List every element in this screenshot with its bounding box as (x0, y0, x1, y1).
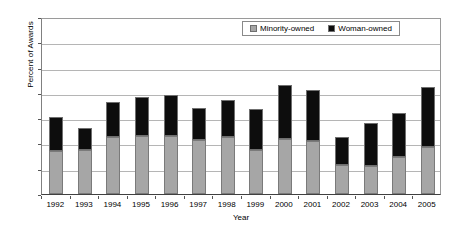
bar-stack (364, 123, 378, 194)
bar-segment-woman-owned (335, 137, 349, 165)
legend-swatch-woman-icon (328, 25, 335, 32)
bar-segment-minority-owned (78, 150, 92, 195)
x-axis-tick-mark (98, 196, 99, 199)
bar-stack (78, 128, 92, 194)
bar-segment-minority-owned (164, 136, 178, 194)
bar-stack (392, 113, 406, 194)
x-axis-tick-mark (127, 196, 128, 199)
bar-segment-minority-owned (335, 165, 349, 194)
bar-segment-minority-owned (49, 151, 63, 194)
x-axis-tick-label: 2005 (407, 200, 447, 209)
x-axis-tick-mark (70, 196, 71, 199)
bar-segment-woman-owned (364, 123, 378, 165)
bar-stack (192, 108, 206, 194)
bar-stack (221, 100, 235, 194)
bar-stack (421, 87, 435, 194)
bar-segment-minority-owned (364, 166, 378, 194)
bar-segment-minority-owned (421, 147, 435, 194)
x-axis-tick-mark (270, 196, 271, 199)
bar-segment-woman-owned (192, 108, 206, 141)
bar-segment-woman-owned (278, 85, 292, 139)
bar-segment-woman-owned (164, 95, 178, 136)
x-axis-tick-mark (384, 196, 385, 199)
bar-segment-woman-owned (135, 97, 149, 136)
bar-segment-woman-owned (221, 100, 235, 137)
bar-segment-minority-owned (221, 137, 235, 194)
bar-segment-woman-owned (306, 90, 320, 141)
bar-segment-woman-owned (78, 128, 92, 149)
bar-segment-woman-owned (49, 117, 63, 151)
x-axis-tick-mark (298, 196, 299, 199)
x-axis-title: Year (41, 213, 441, 222)
legend-swatch-minority-icon (250, 25, 257, 32)
x-axis-tick-mark (184, 196, 185, 199)
chart-legend: Minority-owned Woman-owned (242, 21, 400, 36)
bar-segment-minority-owned (249, 150, 263, 195)
x-axis-tick-mark (41, 196, 42, 199)
x-axis-tick-mark (355, 196, 356, 199)
legend-item-minority-owned: Minority-owned (250, 24, 314, 33)
x-axis-tick-mark (327, 196, 328, 199)
bar-segment-minority-owned (392, 157, 406, 194)
legend-label-minority: Minority-owned (260, 24, 314, 33)
bar-segment-minority-owned (106, 137, 120, 194)
bar-segment-woman-owned (392, 113, 406, 156)
bar-segment-woman-owned (106, 102, 120, 137)
legend-label-woman: Woman-owned (338, 24, 392, 33)
bar-segment-minority-owned (192, 140, 206, 194)
y-axis-title: Percent of Awards (26, 0, 35, 135)
bar-stack (164, 95, 178, 194)
bar-stack (278, 85, 292, 194)
legend-item-woman-owned: Woman-owned (328, 24, 392, 33)
chart-figure: Percent of Awards 05101520253035 1992199… (0, 0, 450, 234)
x-axis-tick-mark (155, 196, 156, 199)
bar-stack (306, 90, 320, 194)
bar-segment-woman-owned (421, 87, 435, 147)
bar-stack (335, 137, 349, 194)
bar-stack (135, 97, 149, 194)
bar-stack (49, 117, 63, 194)
plot-area (41, 18, 441, 195)
bar-stack (249, 109, 263, 194)
bar-segment-minority-owned (306, 141, 320, 194)
bar-segment-minority-owned (135, 136, 149, 194)
x-axis-tick-mark (241, 196, 242, 199)
x-axis-tick-mark (412, 196, 413, 199)
bar-stack (106, 102, 120, 194)
bar-series-group (42, 19, 440, 194)
x-axis-tick-mark (212, 196, 213, 199)
bar-segment-woman-owned (249, 109, 263, 149)
bar-segment-minority-owned (278, 139, 292, 194)
